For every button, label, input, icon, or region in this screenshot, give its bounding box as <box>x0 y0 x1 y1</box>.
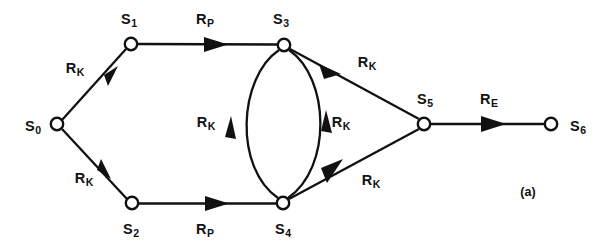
edge-label-s0-s2: RK <box>75 171 93 186</box>
edge-label-s5-s3: RK <box>358 55 376 70</box>
edge-s0-to-s2 <box>62 129 127 199</box>
edge-label-s5-s4: RK <box>362 173 380 188</box>
node-s4[interactable] <box>277 197 289 209</box>
node-label-s3: S3 <box>273 12 289 27</box>
edge-s1-to-s3 <box>138 37 278 52</box>
node-s0[interactable] <box>51 118 63 130</box>
node-s2[interactable] <box>126 197 138 209</box>
node-label-s0: S0 <box>25 119 41 134</box>
arrow-head-s4-s3-arc <box>225 116 236 139</box>
node-label-s2: S2 <box>123 222 139 237</box>
node-s1[interactable] <box>125 38 137 50</box>
figure-caption: (a) <box>520 185 535 199</box>
edge-label-s2-s4: RP <box>196 222 214 237</box>
node-s3[interactable] <box>278 39 290 51</box>
edge-s5-to-s4 <box>289 129 419 199</box>
node-s5[interactable] <box>418 118 430 130</box>
arrow-head-s3-s4-arc <box>321 110 332 133</box>
edge-label-s5-s6: RE <box>480 92 498 107</box>
arrow-head-s5-s6 <box>481 116 506 132</box>
node-label-s1: S1 <box>121 12 137 27</box>
arrow-head-s1-s3 <box>204 37 228 52</box>
edge-s2-to-s4 <box>139 196 277 211</box>
node-s6[interactable] <box>545 118 557 130</box>
node-label-s4: S4 <box>275 222 291 237</box>
arrow-head-s0-s1 <box>104 66 118 86</box>
edge-s5-to-s6 <box>431 116 545 132</box>
edge-s5-to-s3 <box>290 49 419 119</box>
edge-label-s4-s3-arc: RK <box>197 115 215 130</box>
arrow-head-s0-s2 <box>97 159 111 179</box>
edge-label-s1-s3: RP <box>196 12 214 27</box>
edges-group <box>62 37 545 211</box>
edge-s4-to-s3-arc <box>225 50 279 198</box>
arrow-head-s5-s3 <box>319 64 341 79</box>
node-label-s5: S5 <box>417 92 433 107</box>
edge-label-s0-s1: RK <box>66 61 84 76</box>
state-diagram-canvas <box>0 0 607 248</box>
edge-label-s3-s4-arc: RK <box>332 115 350 130</box>
arrow-head-s2-s4 <box>205 196 229 211</box>
node-label-s6: S6 <box>570 119 586 134</box>
figure-container: S0 S1 S2 S3 S4 S5 S6 RK RK RP RP RK RK R… <box>0 0 607 248</box>
